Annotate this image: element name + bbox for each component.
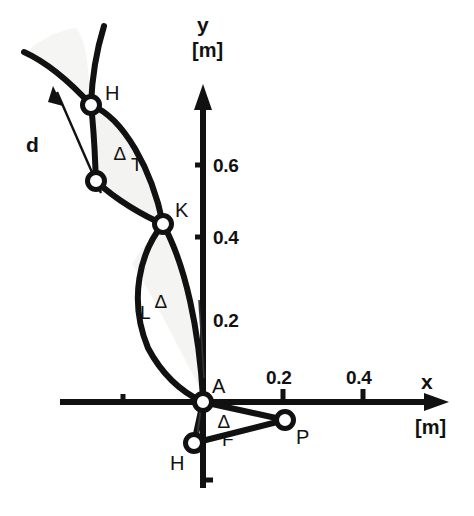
point-label-H: H [105, 83, 119, 103]
x-axis-arrowhead [424, 393, 449, 411]
x-axis-name: x [421, 371, 433, 392]
foot-sole-segment [194, 420, 285, 443]
segment-label-delta-L-delta: ∆ [155, 292, 167, 311]
point-label-H-lower: H [170, 453, 184, 473]
x-axis-unit: [m] [415, 417, 446, 437]
y-tick-label-0.4: 0.4 [213, 228, 239, 247]
segment-outlines [24, 26, 285, 443]
point-label-P: P [296, 427, 309, 447]
x-axis [60, 389, 449, 411]
segment-label-delta-L-base: L [140, 303, 151, 322]
vector-label-d: d [26, 134, 39, 155]
joint-marker-K [155, 216, 172, 233]
joint-marker-A [195, 394, 212, 411]
joint-marker-mid-thigh-joint [88, 173, 105, 190]
joint-marker-H-lower [186, 435, 203, 452]
y-axis-name: y [197, 14, 209, 35]
vector-d-arrowhead [48, 86, 63, 106]
point-label-K: K [175, 200, 188, 220]
joint-marker-H [83, 97, 100, 114]
trunk-upper-curve [91, 26, 104, 105]
kinematic-diagram: y [m] 0.6 0.4 0.2 x [m] 0.2 0.4 H K A H … [0, 0, 474, 516]
y-tick-label-0.2: 0.2 [213, 311, 239, 330]
x-tick-label-0.4: 0.4 [346, 368, 372, 387]
y-axis-unit: [m] [192, 40, 223, 60]
joint-marker-P [277, 412, 294, 429]
y-tick-label-0.6: 0.6 [213, 156, 239, 175]
point-label-A: A [212, 376, 225, 396]
segment-label-delta-F-base: F [222, 430, 234, 449]
segment-label-delta-T-base: T [131, 155, 143, 174]
x-tick-label-0.2: 0.2 [266, 368, 292, 387]
diagram-canvas [0, 0, 474, 516]
y-axis-arrowhead [194, 84, 212, 110]
segment-label-delta-T-delta: ∆ [114, 144, 126, 163]
